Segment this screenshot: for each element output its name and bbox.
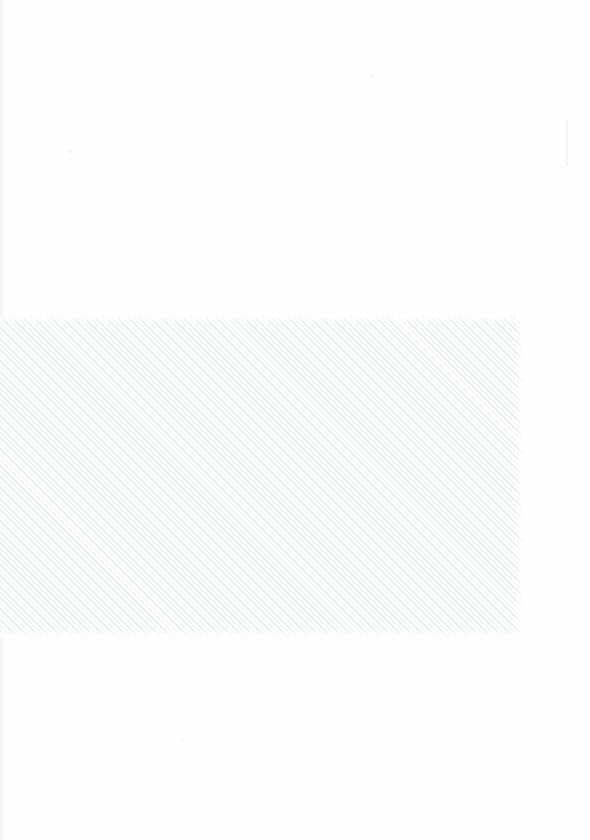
hatch-edge-fade-top: [0, 316, 523, 323]
hatch-edge-fade-bottom: [0, 628, 523, 637]
hatch-edge-fade-right: [515, 316, 523, 637]
faint-vertical-mark: [566, 120, 568, 166]
hatched-rectangle: [0, 316, 523, 637]
scanned-page: [0, 0, 590, 840]
